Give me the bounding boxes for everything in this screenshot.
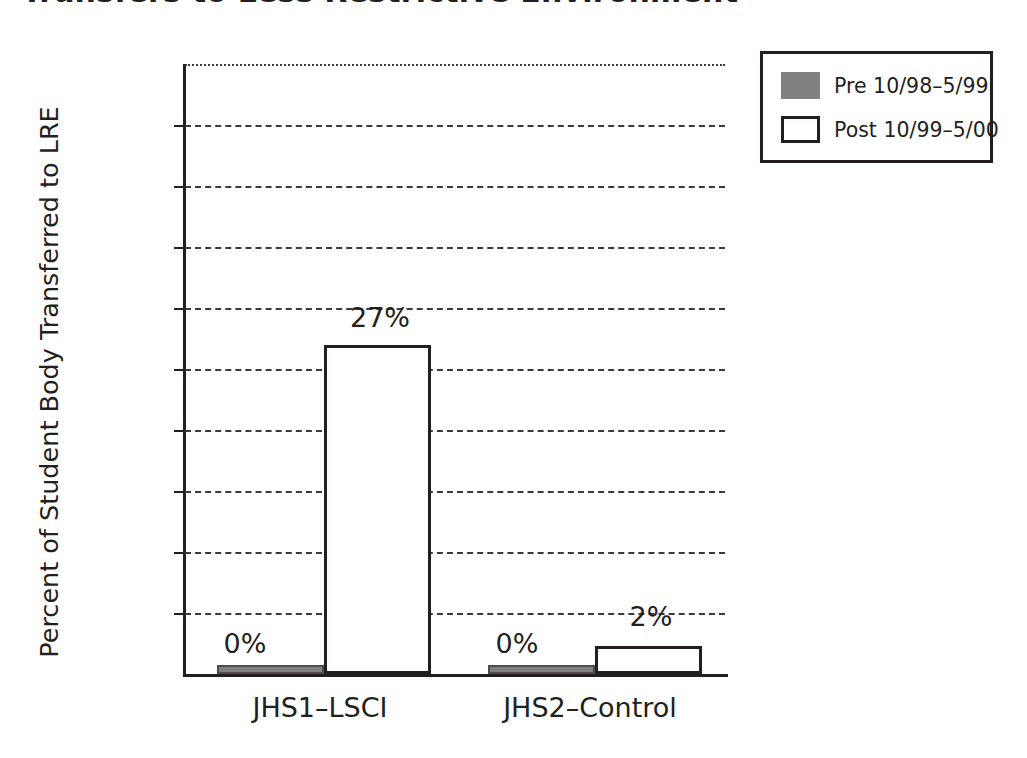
gridline-30 (185, 308, 725, 310)
y-tick-mark-25 (174, 369, 183, 371)
gridline-40 (185, 186, 725, 188)
x-tick-label-jhs2: JHS2–Control (450, 692, 730, 723)
gridline-50 (185, 64, 725, 66)
y-tick-mark-40 (174, 186, 183, 188)
bar-jhs1-post[interactable] (324, 345, 431, 674)
gridline-10 (185, 552, 725, 554)
y-tick-mark-15 (174, 491, 183, 493)
y-tick-mark-20 (174, 430, 183, 432)
legend: Pre 10/98–5/99 Post 10/99–5/00 (760, 51, 993, 163)
bar-jhs2-pre[interactable] (488, 665, 595, 674)
gridline-25 (185, 369, 725, 371)
chart-title: Transfers to Less Restrictive Environmen… (0, 0, 760, 9)
y-tick-mark-30 (174, 308, 183, 310)
y-tick-mark-5 (174, 613, 183, 615)
y-tick-mark-35 (174, 247, 183, 249)
y-tick-mark-45 (174, 125, 183, 127)
legend-label-post: Post 10/99–5/00 (834, 118, 999, 142)
x-tick-label-jhs1: JHS1–LSCI (180, 692, 460, 723)
bar-label-jhs1-pre: 0% (190, 628, 300, 659)
bar-jhs2-post[interactable] (595, 646, 702, 674)
x-axis-line (183, 674, 728, 677)
plot-area (183, 64, 725, 674)
legend-item-post[interactable]: Post 10/99–5/00 (781, 116, 999, 143)
y-tick-mark-10 (174, 552, 183, 554)
gridline-45 (185, 125, 725, 127)
legend-swatch-pre-icon (781, 72, 820, 99)
bar-label-jhs1-post: 27% (325, 302, 435, 333)
legend-label-pre: Pre 10/98–5/99 (834, 74, 988, 98)
legend-item-pre[interactable]: Pre 10/98–5/99 (781, 72, 988, 99)
gridline-35 (185, 247, 725, 249)
legend-swatch-post-icon (781, 116, 820, 143)
gridline-20 (185, 430, 725, 432)
gridline-15 (185, 491, 725, 493)
bar-label-jhs2-post: 2% (596, 601, 706, 632)
bar-jhs1-pre[interactable] (217, 665, 324, 674)
y-axis-title: Percent of Student Body Transferred to L… (34, 62, 64, 702)
bar-label-jhs2-pre: 0% (462, 628, 572, 659)
